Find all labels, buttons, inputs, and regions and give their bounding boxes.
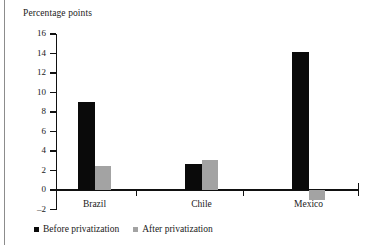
gray-square-swatch-icon [133,227,138,232]
y-tick-label: 10 [22,88,46,97]
legend-item-before[interactable]: Before privatization [34,224,119,234]
category-label-brazil: Brazil [55,199,135,209]
y-tick-label: 0 [22,185,46,194]
y-tick-label: 6 [22,127,46,136]
bar-brazil-after [95,166,112,190]
black-square-swatch-icon [34,227,39,232]
x-tick-mark [243,190,244,196]
y-tick-mark [50,33,56,34]
x-tick-mark [136,190,137,196]
y-tick-mark [50,209,56,210]
chart-figure: Percentage points 1614121086420–2 Brazil… [0,0,377,245]
x-axis-end-tick [358,183,359,190]
legend-label-before: Before privatization [43,224,119,234]
y-tick-mark [50,72,56,73]
y-tick-mark [50,92,56,93]
y-tick-mark [50,189,56,190]
y-tick-label: 14 [22,49,46,58]
bar-brazil-before [78,102,95,190]
y-tick-label: –2 [22,205,46,214]
y-tick-mark [50,131,56,132]
plot-area: 1614121086420–2 BrazilChileMexico [0,0,377,245]
y-tick-label: 4 [22,146,46,155]
y-tick-mark [50,170,56,171]
legend-label-after: After privatization [142,224,212,234]
x-tick-mark [358,190,359,196]
category-label-chile: Chile [162,199,242,209]
y-tick-label: 8 [22,107,46,116]
bar-mexico-before [292,52,309,190]
y-tick-label: 12 [22,68,46,77]
y-tick-label: 2 [22,166,46,175]
bar-chile-after [202,160,219,190]
chart-legend: Before privatization After privatization [34,224,213,234]
y-tick-mark [50,111,56,112]
bar-chile-before [185,164,202,190]
y-tick-mark [50,150,56,151]
y-tick-label: 16 [22,29,46,38]
y-axis-line [56,34,57,210]
category-label-mexico: Mexico [269,199,349,209]
legend-item-after[interactable]: After privatization [133,224,212,234]
y-tick-mark [50,53,56,54]
